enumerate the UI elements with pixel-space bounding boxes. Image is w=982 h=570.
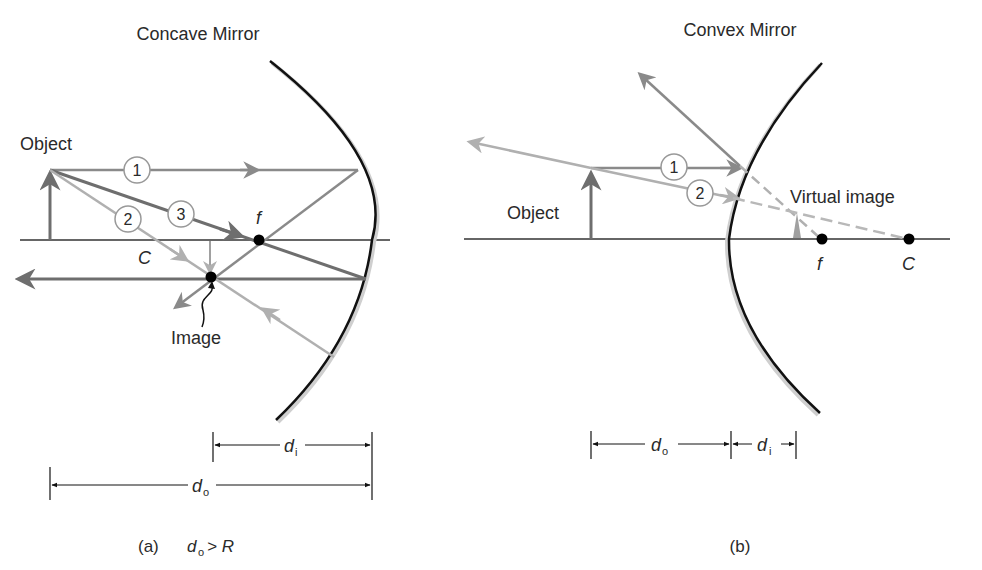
label-c: C	[138, 248, 152, 268]
dimension-di: d i	[213, 432, 372, 500]
panel-concave-mirror: Concave Mirror f C Object Image	[20, 24, 390, 558]
ray-2-badge-b: 2	[687, 180, 713, 206]
virtual-image-label: Virtual image	[790, 187, 895, 207]
svg-text:1: 1	[670, 159, 679, 176]
ray-1-reflected	[180, 170, 358, 304]
ray-2-badge: 2	[115, 206, 141, 232]
svg-text:o: o	[662, 445, 668, 457]
svg-text:> R: > R	[207, 537, 234, 556]
image-pointer	[202, 283, 213, 327]
svg-text:(a): (a)	[138, 537, 159, 556]
panel-convex-mirror: Convex Mirror f C Object Virtual image 1	[464, 20, 950, 556]
label-f: f	[256, 208, 263, 228]
convex-title: Convex Mirror	[683, 20, 796, 40]
svg-text:o: o	[203, 486, 209, 498]
focal-point-dot-b	[817, 234, 828, 245]
label-c-b: C	[902, 254, 916, 274]
svg-text:d: d	[284, 436, 295, 456]
ray-3-incident	[50, 170, 366, 279]
dimension-di-b: d i	[733, 431, 796, 459]
mirror-ray-diagram: Concave Mirror f C Object Image	[0, 0, 982, 570]
svg-text:2: 2	[124, 211, 133, 228]
ray-1-badge-b: 1	[661, 154, 687, 180]
mirror-shadow	[272, 63, 378, 422]
dimension-do: d o	[50, 467, 370, 500]
ray-1-reflected-b	[644, 78, 740, 166]
svg-text:3: 3	[177, 206, 186, 223]
svg-text:d: d	[757, 435, 768, 455]
svg-text:d: d	[187, 537, 197, 556]
caption-b: (b)	[730, 537, 751, 556]
dimension-do-b: d o	[591, 431, 731, 459]
object-label: Object	[20, 134, 72, 154]
label-f-b: f	[817, 254, 824, 274]
svg-text:o: o	[198, 546, 204, 558]
object-label-b: Object	[507, 203, 559, 223]
svg-text:i: i	[295, 446, 297, 458]
convex-mirror-surface	[729, 63, 822, 413]
center-point-dot-b	[904, 234, 915, 245]
svg-text:2: 2	[696, 185, 705, 202]
svg-text:d: d	[192, 476, 203, 496]
ray-1-badge: 1	[124, 157, 150, 183]
caption-a: (a) d o > R	[138, 537, 234, 558]
concave-title: Concave Mirror	[136, 24, 259, 44]
image-label: Image	[171, 328, 221, 348]
virtual-image-arrow	[793, 213, 801, 238]
svg-text:d: d	[651, 435, 662, 455]
ray-3-badge: 3	[168, 201, 194, 227]
ray-2-reflected-b	[475, 143, 591, 168]
svg-text:1: 1	[133, 162, 142, 179]
focal-point-dot	[254, 235, 265, 246]
svg-text:i: i	[769, 445, 771, 457]
image-point-dot	[206, 272, 217, 283]
